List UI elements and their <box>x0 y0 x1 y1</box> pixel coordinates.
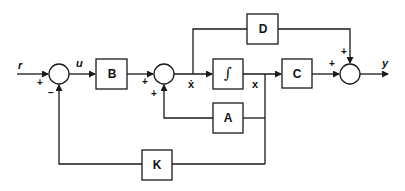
sum2-plus-sign-input: + <box>142 77 148 87</box>
sum1-plus-sign: + <box>37 78 43 88</box>
block-D-label: D <box>248 23 278 35</box>
sum3-plus-sign-feedforward: + <box>341 47 347 57</box>
feedback-from-K-line <box>59 85 142 164</box>
sum3-plus-sign-input: + <box>329 59 335 69</box>
block-C-label: C <box>282 68 312 80</box>
summing-junction-3 <box>340 64 360 84</box>
summing-junction-1 <box>49 64 69 84</box>
signal-u-label: u <box>76 58 83 69</box>
signal-xdot-label: ẋ <box>188 79 194 90</box>
block-A-label: A <box>213 112 243 124</box>
feedforward-from-D-line <box>278 29 350 63</box>
signal-x-label: x <box>252 79 258 90</box>
block-integrator-label: ∫ <box>213 66 243 81</box>
sum2-plus-sign-feedback: + <box>151 89 157 99</box>
summing-junction-2 <box>154 64 174 84</box>
block-diagram-canvas <box>0 0 405 191</box>
signal-y-label: y <box>382 58 388 69</box>
block-B-label: B <box>97 68 127 80</box>
signal-r-label: r <box>18 60 22 71</box>
block-K-label: K <box>142 159 172 171</box>
sum1-minus-sign: − <box>48 88 54 98</box>
